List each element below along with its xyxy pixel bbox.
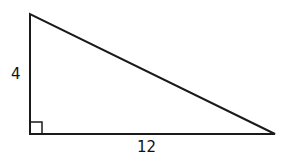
right-triangle [30, 14, 275, 134]
vertical-leg-label: 4 [11, 65, 21, 83]
horizontal-leg-label: 12 [137, 138, 156, 156]
triangle-diagram: 4 12 [0, 0, 292, 164]
right-angle-marker [30, 122, 42, 134]
